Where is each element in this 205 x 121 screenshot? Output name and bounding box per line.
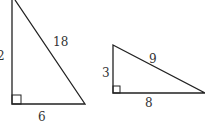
right-angle-marker xyxy=(12,95,21,104)
triangles-diagram: 2 18 6 3 9 8 xyxy=(0,0,205,121)
left-hypotenuse-label: 18 xyxy=(53,35,68,49)
right-triangle: 3 9 8 xyxy=(102,45,205,110)
right-base-label: 8 xyxy=(145,96,153,110)
left-triangle: 2 18 6 xyxy=(0,0,85,121)
right-angle-marker xyxy=(113,86,120,93)
left-triangle-outline xyxy=(12,0,85,104)
left-vertical-label: 2 xyxy=(0,49,5,63)
right-vertical-label: 3 xyxy=(102,66,110,80)
right-hypotenuse-label: 9 xyxy=(149,52,157,66)
left-base-label: 6 xyxy=(38,110,46,121)
right-triangle-outline xyxy=(113,45,205,93)
